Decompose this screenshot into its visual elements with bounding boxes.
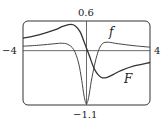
curve-f-label: f [108, 25, 116, 39]
x-min-label: −4 [2, 45, 17, 56]
chart: −4 4 0.6 −1.1 f F [0, 0, 167, 127]
x-max-label: 4 [154, 45, 160, 56]
y-min-label: −1.1 [73, 109, 97, 120]
curve-F-label: F [123, 72, 133, 86]
y-max-label: 0.6 [78, 7, 94, 18]
